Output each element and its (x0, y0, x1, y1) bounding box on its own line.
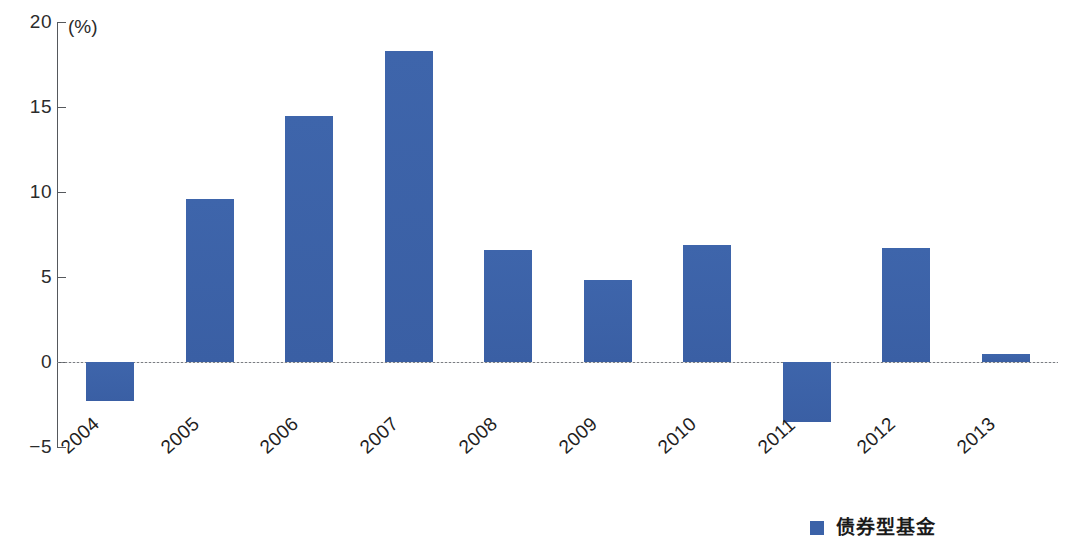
bar-2010 (683, 245, 731, 362)
y-axis-tick-label: 15 (8, 97, 52, 116)
bar-2006 (285, 116, 333, 363)
bar-2004 (86, 362, 134, 401)
x-axis-label-2011: 2011 (754, 414, 798, 457)
chart-figure: (%) 20151050−5 2004200520062007200820092… (0, 0, 1066, 543)
legend-swatch-bond-fund (810, 521, 824, 535)
y-axis-line (57, 22, 58, 448)
zero-baseline (57, 362, 1058, 363)
x-axis-label-2004: 2004 (57, 414, 102, 457)
x-axis-label-2007: 2007 (356, 414, 401, 457)
y-axis-tick-label: 0 (8, 352, 52, 371)
y-axis-tick (58, 192, 66, 193)
x-axis-label-2006: 2006 (256, 414, 301, 457)
y-axis-tick-label: 10 (8, 182, 52, 201)
y-axis-top-cap (57, 22, 66, 23)
x-axis-label-2013: 2013 (953, 414, 998, 457)
chart-legend: 债券型基金 (810, 518, 936, 537)
bar-2012 (882, 248, 930, 362)
bar-2005 (186, 199, 234, 362)
legend-label-bond-fund: 债券型基金 (836, 518, 936, 537)
x-axis-label-2009: 2009 (555, 414, 600, 457)
plot-area: (%) 20151050−5 2004200520062007200820092… (0, 0, 1066, 543)
x-axis-label-2008: 2008 (455, 414, 500, 457)
y-axis-tick-label: 20 (8, 12, 52, 31)
x-axis-label-2010: 2010 (654, 414, 699, 457)
bar-2011 (783, 362, 831, 422)
y-axis-tick-label: 5 (8, 267, 52, 286)
y-axis-tick (58, 107, 66, 108)
x-axis-label-2012: 2012 (853, 414, 898, 457)
bar-2007 (385, 51, 433, 362)
y-axis-tick-label: −5 (8, 437, 52, 456)
x-axis-label-2005: 2005 (157, 414, 202, 457)
bar-2009 (584, 280, 632, 362)
bar-2008 (484, 250, 532, 362)
bar-2013 (982, 354, 1030, 363)
y-axis-tick (58, 277, 66, 278)
y-axis-unit-label: (%) (68, 17, 98, 37)
